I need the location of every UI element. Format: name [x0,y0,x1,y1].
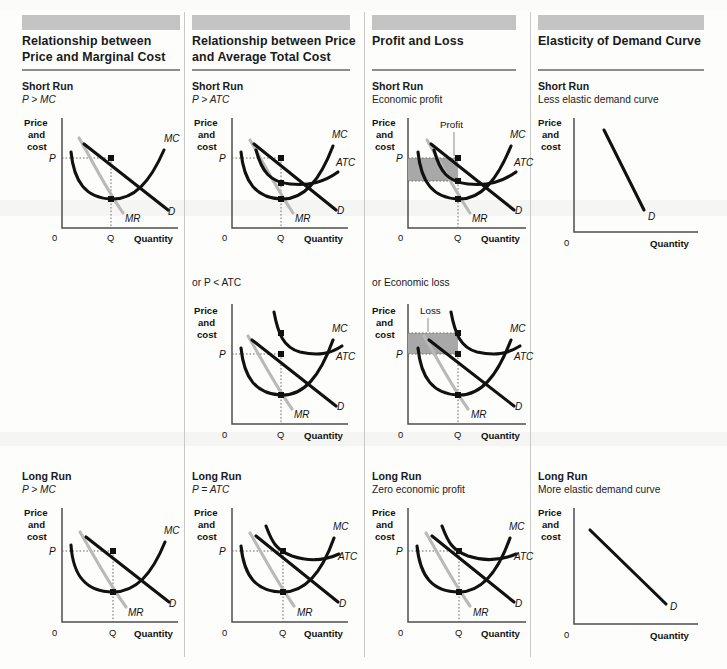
marker-mc-mr-point [110,589,116,595]
section-heading: Long Run [538,470,660,483]
y-axis-label-line1: Price [24,507,47,518]
curve-d [604,130,644,210]
section-long-run: Long Run P > MC [22,470,71,496]
curve-label-d: D [670,601,677,612]
curve-label-d: D [337,205,344,216]
y-axis-label-line2: and [28,519,45,530]
marker-tangency-point [456,548,462,554]
section-subtitle: Economic profit [372,93,442,106]
y-axis-label-line3: cost [541,531,562,542]
curve-d [254,144,336,210]
curve-label-mc: MC [509,521,525,532]
section-long-run: Long Run More elastic demand curve [538,470,660,496]
y-axis-label-line3: cost [197,531,218,542]
y-axis-label-line3: cost [375,531,396,542]
y-axis-label-line3: cost [27,141,48,152]
curve-label-atc: ATC [335,351,356,362]
curve-label-atc: ATC [335,157,356,168]
marker-atc-point [278,330,284,336]
quantity-tick-label: Q [277,429,284,440]
section-short-run: Short Run Economic profit [372,80,442,106]
curve-label-mc: MC [510,129,526,140]
column-title: Elasticity of Demand Curve [538,33,718,49]
column-price-average-total-cost: Relationship between Price and Average T… [186,0,367,669]
chart-c2-long: Price and cost 0 P Q Quantity MC ATC D [186,500,361,645]
price-tick-label: P [396,349,403,360]
curve-mr [80,532,126,607]
curve-label-mr: MR [473,607,489,618]
figure-grid: Relationship between Price and Marginal … [0,0,727,669]
y-axis-label-line1: Price [24,117,47,128]
y-axis-label-line1: Price [194,117,217,128]
curve-label-atc: ATC [513,157,534,168]
marker-mc-mr-point [456,589,462,595]
section-heading: Long Run [22,470,71,483]
y-axis-label-line3: cost [27,531,48,542]
y-axis-label-line1: Price [372,305,395,316]
chart-c4-long: Price and cost 0 Quantity D [532,500,722,650]
curve-label-atc: ATC [337,551,358,562]
curve-label-mr: MR [295,213,311,224]
curve-label-mc: MC [510,323,526,334]
curve-mc [71,150,164,199]
chart-c2-mid: Price and cost 0 P Q Quantity [186,296,361,446]
curve-d [84,144,168,210]
marker-mc-mr-point [280,589,286,595]
marker-mc-mr-point [455,392,461,398]
x-axis-label: Quantity [481,628,521,639]
x-axis-label: Quantity [650,630,690,641]
column-title: Relationship between Price and Average T… [192,33,358,65]
curve-label-d: D [515,401,522,412]
y-axis-label-line2: and [542,519,559,530]
y-axis-label-line2: and [376,129,393,140]
x-axis-label: Quantity [304,233,344,244]
section-subtitle: P > MC [22,93,73,106]
curve-mc [241,538,334,592]
x-axis-label: Quantity [650,238,690,249]
price-tick-label: P [49,153,56,164]
marker-tangency-point [280,548,286,554]
y-axis-label-line1: Price [194,507,217,518]
marker-price-point [278,155,284,161]
axis-lines [574,118,698,232]
y-axis-label-line1: Price [538,117,561,128]
chart-c4-short: Price and cost 0 Quantity D [532,110,722,255]
marker-mc-mr-point [278,196,284,202]
section-long-run: Long Run P = ATC [192,470,241,496]
section-subtitle: P > ATC [192,93,243,106]
y-axis-label-line2: and [376,317,393,328]
y-axis-label-line3: cost [375,329,396,340]
y-axis-label-line3: cost [541,141,562,152]
section-or-alt: or Economic loss [372,276,450,289]
marker-mc-mr-point [278,392,284,398]
curve-mr [79,138,123,213]
column-header-bar [538,15,704,30]
curve-label-mr: MR [128,607,144,618]
chart-c2-short: Price and cost 0 P Q Quantity [186,110,361,250]
curve-label-mr: MR [471,409,487,420]
section-subtitle: P = ATC [192,483,241,496]
x-axis-label: Quantity [304,430,344,441]
price-tick-label: P [396,546,403,557]
x-axis-label: Quantity [304,628,344,639]
y-axis-label-line2: and [376,519,393,530]
section-subtitle: Less elastic demand curve [538,93,659,106]
column-elasticity-of-demand: Elasticity of Demand Curve Short Run Les… [532,0,713,669]
origin-label: 0 [52,232,57,243]
curve-label-mr: MR [125,213,141,224]
column-title-rule [372,69,516,71]
column-title: Profit and Loss [372,33,532,49]
origin-label: 0 [222,232,227,243]
curve-label-mr: MR [472,213,488,224]
curve-label-d: D [337,401,344,412]
origin-label: 0 [564,237,569,248]
y-axis-label-line1: Price [194,305,217,316]
marker-price-point [110,548,116,554]
quantity-tick-label: Q [109,627,116,638]
column-title-rule [192,69,350,71]
marker-atc-point [455,330,461,336]
curve-label-d: D [339,598,346,609]
price-tick-label: P [49,546,56,557]
axis-lines [574,508,698,624]
y-axis-label-line3: cost [197,329,218,340]
